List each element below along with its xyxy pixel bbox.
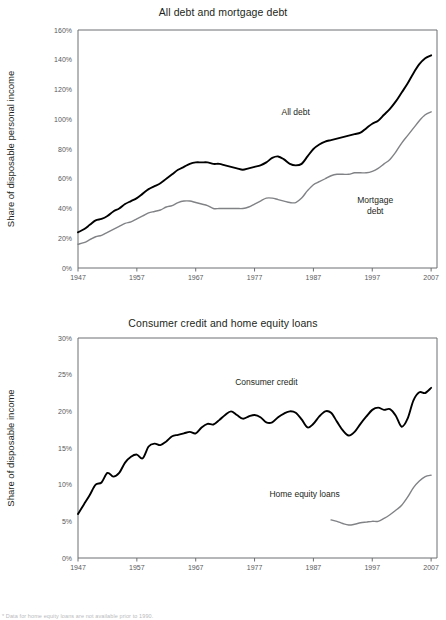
chart-title-bottom: Consumer credit and home equity loans [0, 310, 446, 330]
y-tick-label: 15% [58, 445, 72, 452]
y-tick-label: 160% [54, 27, 72, 34]
x-tick-label: 1947 [70, 274, 86, 281]
series-annotation-consumer-credit: Consumer credit [235, 377, 298, 387]
x-tick-label: 1997 [364, 274, 380, 281]
y-tick-label: 80% [58, 146, 72, 153]
y-tick-label: 120% [54, 86, 72, 93]
y-tick-label: 0% [62, 265, 72, 272]
y-tick-label: 5% [62, 518, 72, 525]
x-tick-label: 1987 [306, 564, 322, 571]
x-tick-label: 1997 [364, 564, 380, 571]
x-tick-label: 1967 [188, 274, 204, 281]
series-line-home-equity-loans [331, 475, 431, 525]
y-tick-label: 30% [58, 335, 72, 342]
y-tick-label: 0% [62, 555, 72, 562]
y-tick-label: 10% [58, 481, 72, 488]
series-annotation-mortgage-debt: Mortgagedebt [357, 195, 393, 216]
chart-panel-all-debt: All debt and mortgage debt Share of disp… [0, 0, 446, 310]
x-tick-label: 1977 [247, 564, 263, 571]
x-tick-label: 1987 [306, 274, 322, 281]
series-line-consumer-credit [78, 388, 431, 514]
y-tick-label: 60% [58, 175, 72, 182]
y-tick-label: 25% [58, 371, 72, 378]
line-chart-consumer-credit: Share of disposable income0%5%10%15%20%2… [0, 330, 446, 600]
plot-frame [78, 338, 437, 558]
y-axis-label: Share of disposable personal income [5, 71, 16, 227]
chart-title-top: All debt and mortgage debt [0, 0, 446, 19]
x-tick-label: 2007 [423, 564, 439, 571]
x-tick-label: 1957 [129, 274, 145, 281]
y-tick-label: 40% [58, 205, 72, 212]
x-tick-label: 2007 [423, 274, 439, 281]
x-tick-label: 1977 [247, 274, 263, 281]
line-chart-all-debt: Share of disposable personal income0%20%… [0, 19, 446, 309]
plot-area-top: Share of disposable personal income0%20%… [0, 19, 446, 309]
y-tick-label: 100% [54, 116, 72, 123]
series-line-mortgage-debt [78, 112, 431, 244]
chart-footnote: * Data for home equity loans are not ava… [2, 613, 153, 619]
y-axis-label: Share of disposable income [5, 389, 16, 506]
plot-frame [78, 30, 437, 268]
y-tick-label: 20% [58, 235, 72, 242]
x-tick-label: 1967 [188, 564, 204, 571]
x-tick-label: 1947 [70, 564, 86, 571]
series-annotation-all-debt: All debt [282, 107, 311, 117]
series-annotation-home-equity-loans: Home equity loans [269, 489, 339, 499]
plot-area-bottom: Share of disposable income0%5%10%15%20%2… [0, 330, 446, 600]
y-tick-label: 140% [54, 56, 72, 63]
x-tick-label: 1957 [129, 564, 145, 571]
y-tick-label: 20% [58, 408, 72, 415]
chart-panel-consumer-credit: Consumer credit and home equity loans Sh… [0, 310, 446, 600]
